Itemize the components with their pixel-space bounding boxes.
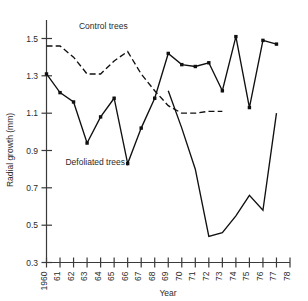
x-tick-label-17: 77	[268, 271, 278, 281]
series-group	[45, 35, 278, 236]
series-1-point-8	[153, 97, 156, 100]
series-1-point-16	[261, 39, 264, 42]
series-1-point-5	[112, 97, 115, 100]
series-1-point-10	[180, 63, 183, 66]
y-axis-title: Radial growth (mm)	[5, 113, 15, 187]
x-tick-label-2: 62	[66, 271, 76, 281]
chart-container: 0.3 0.5 0.7 0.9 1.1 1.3 1.5 Radial growt…	[0, 0, 308, 301]
series-1-point-9	[167, 52, 170, 55]
series-1-point-6	[126, 162, 129, 165]
x-axis-title: Year	[159, 288, 176, 298]
x-tick-label-15: 75	[241, 271, 251, 281]
x-tick-label-14: 74	[228, 271, 238, 281]
series-1-point-3	[85, 141, 88, 144]
series-1-point-1	[58, 91, 61, 94]
x-tick-label-18: 78	[282, 271, 292, 281]
radial-growth-line-chart: 0.3 0.5 0.7 0.9 1.1 1.3 1.5 Radial growt…	[0, 0, 308, 301]
series-1-point-14	[234, 35, 237, 38]
y-tick-label-6: 1.5	[26, 34, 38, 44]
series-line-1	[47, 37, 277, 164]
x-tick-label-7: 67	[133, 271, 143, 281]
x-tick-label-13: 73	[214, 271, 224, 281]
series-1-point-4	[99, 115, 102, 118]
series-1-point-2	[72, 100, 75, 103]
y-tick-label-1: 0.5	[26, 220, 38, 230]
x-tick-label-3: 63	[79, 271, 89, 281]
y-tick-label-4: 1.1	[26, 108, 38, 118]
series-annotations: Control treesDefoliated trees	[65, 21, 127, 167]
axes-group	[47, 20, 291, 263]
x-tick-label-16: 76	[255, 271, 265, 281]
y-tick-label-2: 0.7	[26, 183, 38, 193]
x-tick-label-11: 71	[187, 271, 197, 281]
series-1-point-13	[221, 89, 224, 92]
x-tick-label-4: 64	[93, 271, 103, 281]
x-tick-label-6: 66	[120, 271, 130, 281]
series-1-point-15	[248, 106, 251, 109]
x-tick-label-1: 61	[52, 271, 62, 281]
series-1-point-12	[207, 61, 210, 64]
series-1-point-0	[45, 72, 48, 75]
x-tick-label-8: 68	[147, 271, 157, 281]
series-1-point-17	[275, 42, 278, 45]
x-tick-label-10: 70	[174, 271, 184, 281]
series-1-point-7	[139, 126, 142, 129]
y-tick-label-0: 0.3	[26, 258, 38, 268]
series-1-point-11	[194, 65, 197, 68]
annotation-1: Defoliated trees	[65, 157, 125, 167]
y-axis-tick-labels: 0.3 0.5 0.7 0.9 1.1 1.3 1.5	[26, 34, 38, 268]
x-tick-label-0: 1960	[39, 271, 49, 290]
x-tick-label-9: 69	[160, 271, 170, 281]
x-tick-label-5: 65	[106, 271, 116, 281]
x-tick-label-12: 72	[201, 271, 211, 281]
y-tick-label-5: 1.3	[26, 71, 38, 81]
y-tick-label-3: 0.9	[26, 146, 38, 156]
annotation-0: Control trees	[79, 21, 128, 31]
